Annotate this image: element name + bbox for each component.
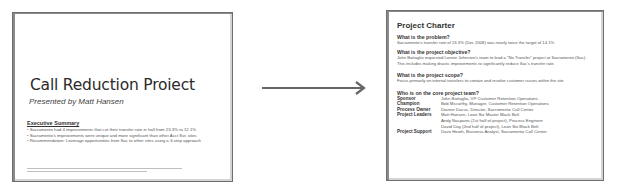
slide-title: Project Charter: [397, 21, 455, 30]
team-member: Dave Heath, Business Analyst, Sacramento…: [441, 129, 602, 135]
slide-thumbnail-title[interactable]: Call Reduction Proiect Presented by Matt…: [12, 12, 233, 182]
arrow-right-icon: [260, 80, 370, 96]
section-answer: Sacramento's transfer rate of 23.3% (Dec…: [397, 40, 602, 45]
section-answer: Focus primarily on internal transfers to…: [397, 78, 602, 83]
section-answer: This includes making drastic improvement…: [397, 61, 602, 66]
slide-subtitle: Presented by Matt Hansen: [29, 97, 124, 106]
slide-title: Call Reduction Proiect: [30, 76, 195, 94]
charter-body: What is the problem? Sacramento's transf…: [397, 34, 602, 135]
team-role: Project Support: [397, 129, 441, 135]
executive-summary-heading: Executive Summary: [27, 120, 232, 127]
slide-footer-fine-print: [27, 168, 187, 174]
executive-summary: Executive Summary • Sacramento had 4 imp…: [27, 120, 232, 144]
slide-thumbnail-project-charter[interactable]: Project Charter What is the problem? Sac…: [386, 10, 604, 181]
team-table: Sponsor John Battaglia, VP Customer Rete…: [397, 96, 602, 135]
summary-bullet: • Recommendation: Leverage opportunities…: [27, 138, 232, 144]
